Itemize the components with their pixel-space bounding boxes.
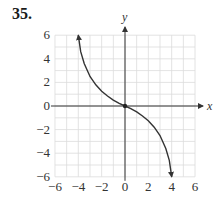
y-axis-label: y [121, 10, 128, 24]
x-tick-label: 0 [122, 179, 129, 194]
y-tick-label: 6 [44, 27, 51, 42]
x-tick-label: 2 [145, 179, 152, 194]
x-tick-label: 4 [168, 179, 175, 194]
tick-labels: −6−4−202466420−2−4−6 [36, 27, 199, 194]
x-tick-label: −2 [95, 179, 109, 194]
y-tick-label: 4 [44, 51, 51, 66]
x-tick-label: 6 [192, 179, 199, 194]
axes: xy [51, 10, 213, 181]
x-tick-label: −4 [71, 179, 85, 194]
y-tick-label: 2 [44, 74, 51, 89]
y-tick-label: −2 [36, 122, 50, 137]
y-tick-label: −6 [36, 169, 50, 184]
y-tick-label: 0 [44, 98, 51, 113]
y-tick-label: −4 [36, 145, 50, 160]
x-axis-label: x [206, 99, 213, 113]
graph: xy −6−4−202466420−2−4−6 [0, 0, 216, 199]
origin-point [123, 104, 127, 108]
x-tick-label: −6 [48, 179, 62, 194]
